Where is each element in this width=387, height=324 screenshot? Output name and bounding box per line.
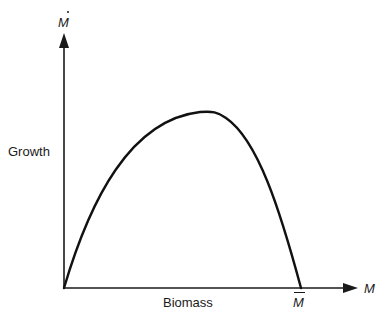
y-axis-symbol: M [58, 16, 69, 29]
x-axis-symbol: M [364, 282, 375, 295]
growth-curve [64, 112, 301, 288]
x-axis-arrow-icon [343, 283, 358, 293]
y-axis-arrow-icon [59, 33, 69, 48]
carrying-capacity-label: M [293, 296, 304, 309]
y-symbol-dot [67, 11, 69, 13]
mbar-overline [294, 292, 305, 293]
y-axis-label: Growth [8, 145, 50, 158]
x-axis-label: Biomass [163, 296, 213, 309]
growth-biomass-diagram [0, 0, 387, 324]
